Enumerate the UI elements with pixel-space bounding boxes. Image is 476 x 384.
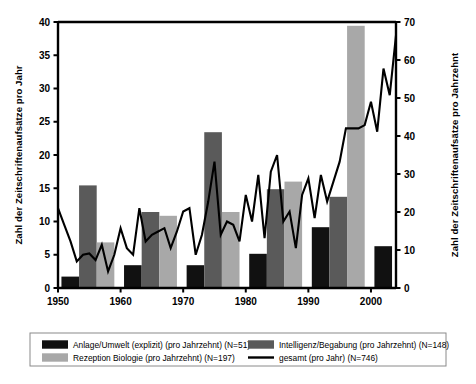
y-tick-label-left-25: 25 (39, 116, 51, 127)
y-axis-left-title: Zahl der Zeitschriftenaufsätze pro Jahr (13, 65, 24, 244)
y-tick-label-right-30: 30 (404, 169, 416, 180)
y-tick-label-right-20: 20 (404, 207, 416, 218)
bar-group-1990 (312, 26, 365, 288)
y-tick-label-left-5: 5 (44, 249, 50, 260)
bar-1970-series-0 (187, 265, 205, 288)
y-tick-label-left-20: 20 (39, 150, 51, 161)
y-tick-label-left-10: 10 (39, 216, 51, 227)
bar-1960-series-1 (142, 212, 160, 288)
legend-item-1[interactable]: Intelligenz/Begabung (pro Jahrzehnt) (N=… (248, 340, 449, 350)
dual-axis-bar-line-chart: 0510152025303540010203040506070195019601… (0, 0, 476, 384)
x-tick-label-1960: 1960 (109, 296, 132, 307)
x-tick-label-1990: 1990 (297, 296, 320, 307)
bar-1990-series-0 (312, 227, 330, 288)
bar-1950-series-1 (79, 185, 97, 288)
legend-label-1: Intelligenz/Begabung (pro Jahrzehnt) (N=… (279, 340, 449, 350)
bar-group-2000 (374, 246, 392, 288)
legend-label-0: Anlage/Umwelt (explizit) (pro Jahrzehnt)… (73, 340, 250, 350)
bar-1950-series-0 (61, 277, 79, 288)
y-tick-label-left-40: 40 (39, 17, 51, 28)
x-axis-ticks: 195019601970198019902000 (47, 288, 383, 307)
y-tick-label-right-70: 70 (404, 17, 416, 28)
legend: Anlage/Umwelt (explizit) (pro Jahrzehnt)… (30, 333, 449, 366)
x-tick-label-1950: 1950 (47, 296, 70, 307)
legend-label-2: Rezeption Biologie (pro Jahrzehnt) (N=19… (73, 353, 235, 363)
legend-swatch-box-0 (42, 340, 68, 348)
y-axis-right-title: Zahl der Zeitschriftenaufsätze pro Jahrz… (449, 52, 460, 257)
y-tick-label-left-30: 30 (39, 83, 51, 94)
x-tick-label-2000: 2000 (360, 296, 383, 307)
bar-group-1960 (124, 212, 177, 288)
y-tick-label-right-10: 10 (404, 245, 416, 256)
bar-2000-series-0 (374, 246, 392, 288)
bar-1990-series-2 (347, 26, 365, 288)
bar-1960-series-2 (159, 216, 177, 288)
legend-label-3: gesamt (pro Jahr) (N=746) (279, 353, 378, 363)
bar-group-1970 (187, 132, 240, 288)
y-tick-label-right-60: 60 (404, 55, 416, 66)
legend-swatch-box-2 (42, 353, 68, 361)
bar-1960-series-0 (124, 265, 142, 288)
y-tick-label-left-15: 15 (39, 183, 51, 194)
y-axis-left-ticks: 0510152025303540 (39, 17, 58, 294)
bar-1980-series-0 (249, 254, 267, 288)
x-tick-label-1970: 1970 (172, 296, 195, 307)
bar-layer (61, 26, 392, 288)
y-axis-right-ticks: 010203040506070 (396, 17, 416, 294)
y-tick-label-right-0: 0 (404, 283, 410, 294)
y-tick-label-right-50: 50 (404, 93, 416, 104)
x-tick-label-1980: 1980 (235, 296, 258, 307)
y-tick-label-left-35: 35 (39, 50, 51, 61)
y-tick-label-left-0: 0 (44, 283, 50, 294)
legend-swatch-box-1 (248, 340, 274, 348)
legend-item-0[interactable]: Anlage/Umwelt (explizit) (pro Jahrzehnt)… (42, 340, 250, 350)
bar-1990-series-1 (329, 197, 347, 288)
chart-container: 0510152025303540010203040506070195019601… (0, 0, 476, 384)
y-tick-label-right-40: 40 (404, 131, 416, 142)
